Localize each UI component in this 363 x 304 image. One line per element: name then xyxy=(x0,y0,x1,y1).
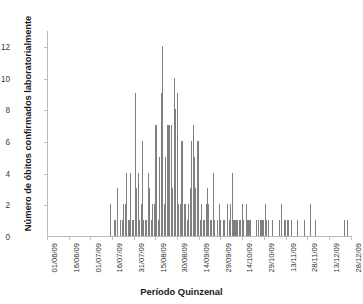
bar xyxy=(117,188,118,236)
x-axis-title: Período Quinzenal xyxy=(0,286,363,297)
x-tick-mark xyxy=(307,237,308,240)
x-tick-label: 31/07/09 xyxy=(137,243,146,273)
bar xyxy=(250,220,251,236)
x-tick-label: 14/09/09 xyxy=(202,243,211,273)
x-tick-mark xyxy=(286,237,287,240)
x-tick-label: 30/08/09 xyxy=(180,243,189,273)
bar xyxy=(114,220,115,236)
x-tick-mark xyxy=(134,237,135,240)
x-tick-label: 01/06/09 xyxy=(50,243,59,273)
bar xyxy=(110,204,111,236)
y-tick-label: 10 xyxy=(0,74,10,83)
y-tick-label: 4 xyxy=(0,169,10,178)
x-tick-mark xyxy=(264,237,265,240)
x-tick-mark xyxy=(90,237,91,240)
bar xyxy=(272,220,273,236)
x-tick-label: 01/07/09 xyxy=(94,243,103,273)
x-tick-mark xyxy=(155,237,156,240)
x-tick-label: 29/09/09 xyxy=(224,243,233,273)
bar xyxy=(291,220,292,236)
x-tick-label: 28/12/09 xyxy=(354,243,363,273)
y-axis-title: Número de óbitos confirmados laboratoria… xyxy=(22,9,33,239)
x-tick-label: 15/08/09 xyxy=(159,243,168,273)
bar xyxy=(304,220,305,236)
x-tick-mark xyxy=(242,237,243,240)
bar xyxy=(258,220,259,236)
bar xyxy=(310,204,311,236)
x-tick-mark xyxy=(177,237,178,240)
x-tick-mark xyxy=(112,237,113,240)
x-tick-mark xyxy=(220,237,221,240)
x-tick-label: 16/06/09 xyxy=(72,243,81,273)
bar xyxy=(281,204,282,236)
x-tick-mark xyxy=(69,237,70,240)
bar xyxy=(297,220,298,236)
x-tick-label: 13/12/09 xyxy=(332,243,341,273)
y-tick-label: 2 xyxy=(0,201,10,210)
x-tick-label: 28/11/09 xyxy=(310,243,319,272)
x-tick-label: 29/10/09 xyxy=(267,243,276,273)
bar xyxy=(268,220,269,236)
x-tick-label: 16/07/09 xyxy=(115,243,124,273)
x-tick-label: 13/11/09 xyxy=(289,243,298,272)
x-tick-label: 14/10/09 xyxy=(245,243,254,273)
bar xyxy=(347,220,348,236)
y-tick-label: 6 xyxy=(0,137,10,146)
bar-series xyxy=(48,31,352,236)
x-tick-mark xyxy=(47,237,48,240)
bar xyxy=(224,220,225,236)
chart-figure: Número de óbitos confirmados laboratoria… xyxy=(0,0,363,304)
x-tick-mark xyxy=(199,237,200,240)
bar xyxy=(243,220,244,236)
y-tick-label: 8 xyxy=(0,106,10,115)
y-tick-label: 12 xyxy=(0,42,10,51)
bar xyxy=(344,220,345,236)
y-tick-label: 0 xyxy=(0,233,10,242)
x-tick-mark xyxy=(329,237,330,240)
bar xyxy=(315,220,316,236)
plot-area xyxy=(47,31,352,237)
x-tick-mark xyxy=(351,237,352,240)
bar xyxy=(288,220,289,236)
bar xyxy=(214,220,215,236)
bar xyxy=(220,220,221,236)
